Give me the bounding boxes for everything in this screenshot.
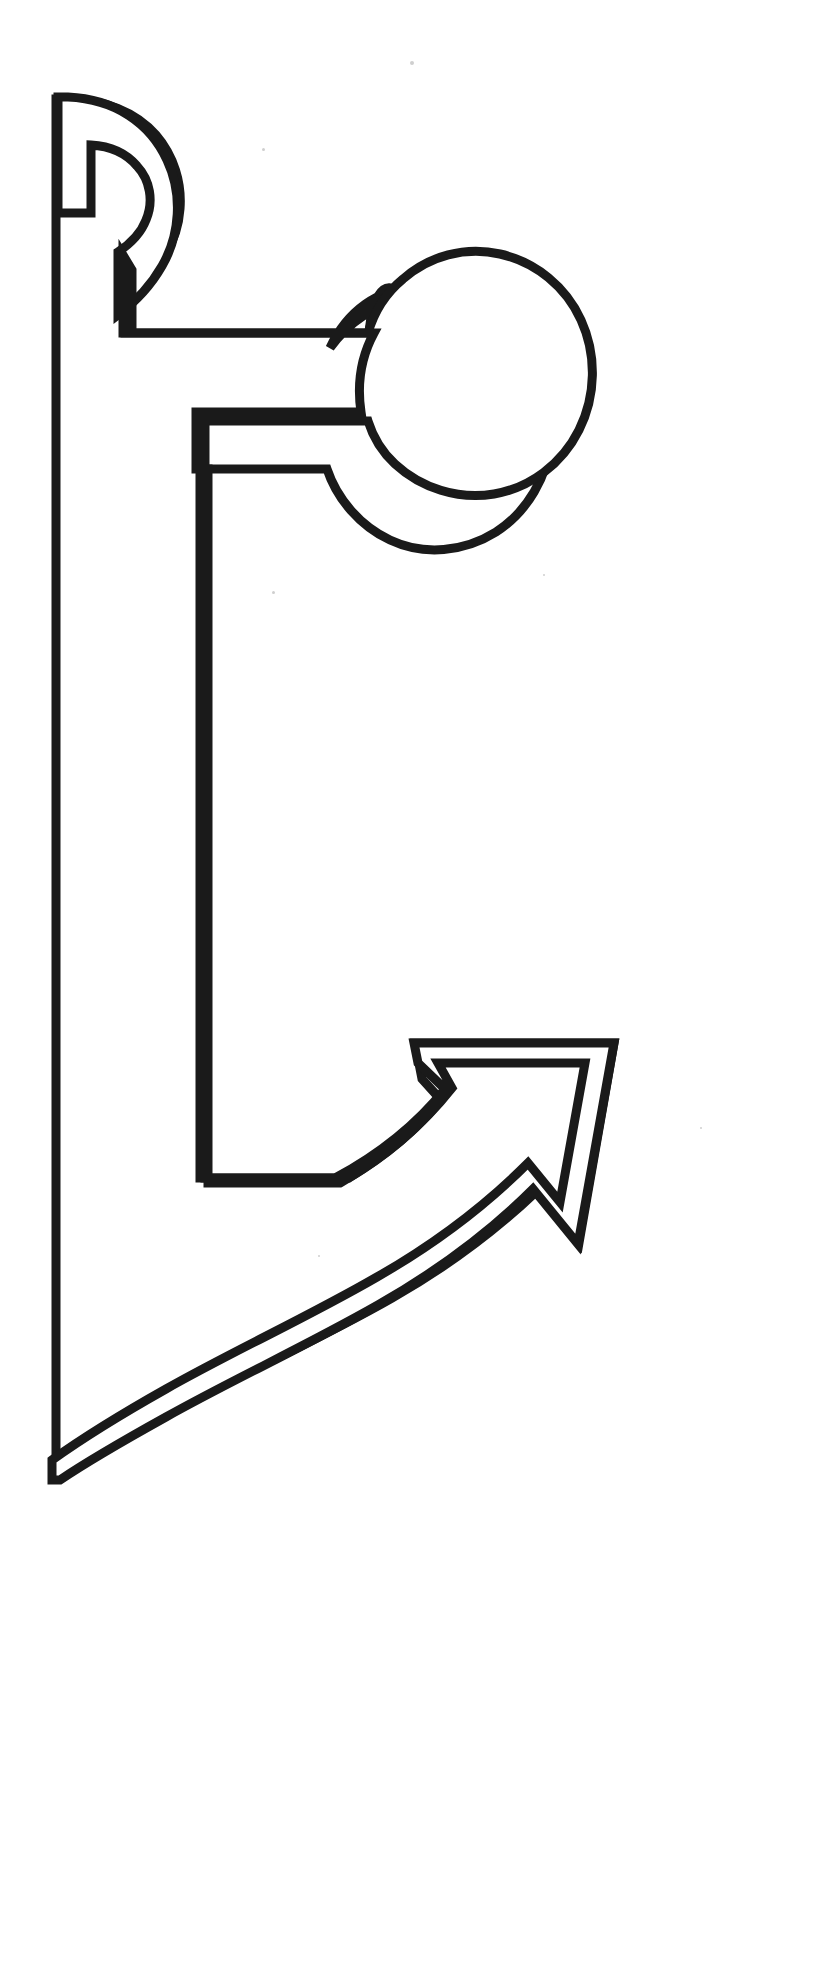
hook-arrow-figure: [0, 0, 819, 1962]
drawing-canvas: [0, 0, 819, 1962]
